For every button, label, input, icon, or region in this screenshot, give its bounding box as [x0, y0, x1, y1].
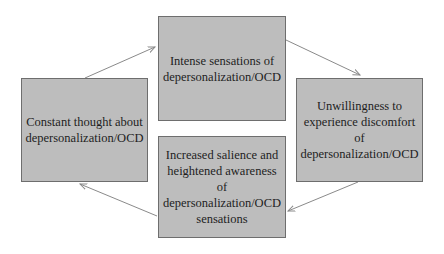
node-label: Unwillingness to experience discomfort o…	[300, 98, 418, 162]
arrow-right-to-bottom	[288, 182, 358, 211]
node-label: Constant thought about depersonalization…	[25, 114, 143, 146]
node-increased-salience: Increased salience and heightened awaren…	[158, 136, 286, 238]
arrow-left-to-top	[85, 47, 155, 78]
arrow-top-to-right	[286, 40, 360, 75]
node-intense-sensations: Intense sensations of depersonalization/…	[158, 16, 286, 121]
arrow-bottom-to-left	[80, 184, 157, 216]
node-label: Increased salience and heightened awaren…	[163, 147, 281, 227]
node-constant-thought: Constant thought about depersonalization…	[21, 78, 148, 182]
node-unwillingness: Unwillingness to experience discomfort o…	[296, 78, 423, 182]
node-label: Intense sensations of depersonalization/…	[163, 53, 281, 85]
